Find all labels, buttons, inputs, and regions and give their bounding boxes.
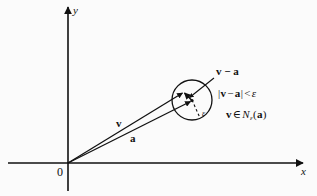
point-a-dot xyxy=(190,99,193,102)
epsilon-label: ε xyxy=(202,110,205,118)
difference-label-pointer xyxy=(190,78,215,98)
cond1-minus: − xyxy=(226,87,235,99)
cond1-less-than: < xyxy=(243,87,252,99)
cond2-paren-close: ) xyxy=(263,108,267,120)
difference-vector-label: v − a xyxy=(216,66,239,77)
cond2-element-of: ∈ xyxy=(232,108,242,120)
vector-v-label: v xyxy=(116,118,122,129)
membership-condition: v∈Nε(a) xyxy=(226,109,267,122)
origin-label: 0 xyxy=(57,166,63,178)
cond1-epsilon: ε xyxy=(252,87,257,99)
epsilon-radius-line xyxy=(192,100,200,118)
y-axis-label: y xyxy=(73,5,78,16)
cond2-vector-v: v xyxy=(226,108,232,120)
vector-neighborhood-figure: y x 0 v a v − a ε |v−a|<ε v∈Nε(a) xyxy=(0,0,317,196)
figure-canvas xyxy=(0,0,317,196)
vector-a-label: a xyxy=(130,133,136,144)
distance-condition: |v−a|<ε xyxy=(218,88,256,99)
vector-v-arrow xyxy=(68,93,183,163)
x-axis-label: x xyxy=(301,166,306,177)
cond2-neighborhood-n: N xyxy=(242,108,250,120)
